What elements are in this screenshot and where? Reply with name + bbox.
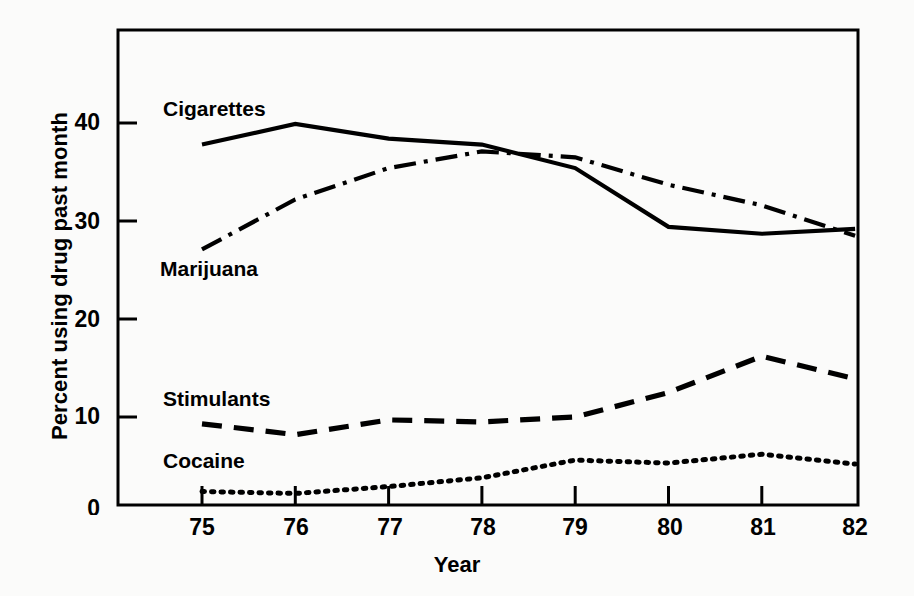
y-tick-marks: [119, 123, 137, 417]
series-line-cigarettes: [202, 124, 855, 234]
plot-frame: [118, 30, 858, 505]
series-paths: [202, 124, 855, 493]
plot-area: [0, 0, 914, 596]
series-line-stimulants: [202, 356, 855, 434]
chart-figure: Percent using drug past month Year 40 30…: [0, 0, 914, 596]
series-line-cocaine: [202, 454, 855, 493]
